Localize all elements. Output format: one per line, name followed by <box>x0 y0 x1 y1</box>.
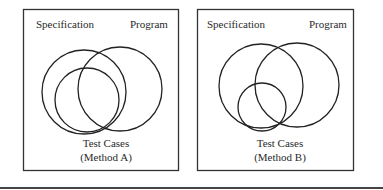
panel-b-program-circle <box>255 43 339 127</box>
panel-a-testcases-label: Test Cases <box>76 137 136 149</box>
panel-a-program-circle <box>78 47 162 131</box>
panel-b-spec-circle <box>219 44 303 128</box>
panel-a-spec-label: Specification <box>36 18 94 30</box>
panel-a-testcases-circle <box>55 68 119 132</box>
panel-a-program-label: Program <box>130 18 168 30</box>
panel-b-testcases-label: Test Cases <box>250 137 310 149</box>
panel-b-spec-label: Specification <box>207 18 265 30</box>
panel-b-program-label: Program <box>309 18 347 30</box>
panel-a-method-label: (Method A) <box>76 151 136 163</box>
panel-a-spec-circle <box>42 50 126 134</box>
panel-b-method-label: (Method B) <box>250 151 310 163</box>
panel-b-testcases-circle <box>238 83 286 131</box>
